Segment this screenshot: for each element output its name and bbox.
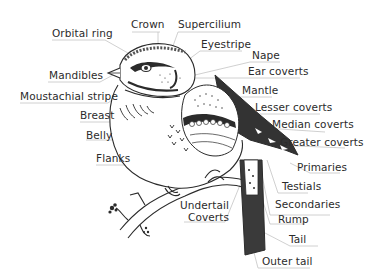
label-outer-tail: Outer tail <box>262 255 313 267</box>
label-belly: Belly <box>86 129 112 141</box>
label-mandibles: Mandibles <box>49 69 103 81</box>
label-testials: Testials <box>282 180 321 192</box>
label-nape: Nape <box>252 49 280 61</box>
label-mantle: Mantle <box>242 84 278 96</box>
label-breast: Breast <box>80 109 114 121</box>
label-secondaries: Secondaries <box>275 198 340 210</box>
label-undertail-coverts-line2: Coverts <box>188 211 229 223</box>
label-supercilium: Supercilium <box>178 18 241 30</box>
label-orbital-ring: Orbital ring <box>52 27 113 39</box>
label-primaries: Primaries <box>297 161 347 173</box>
label-rump: Rump <box>278 213 309 225</box>
bird-anatomy-diagram: Crown Supercilium Orbital ring Eyestripe… <box>0 0 373 278</box>
label-median-coverts: Median coverts <box>272 118 354 130</box>
label-flanks: Flanks <box>96 152 130 164</box>
label-crown: Crown <box>131 18 165 30</box>
label-undertail-coverts-line1: Undertail <box>180 199 229 211</box>
label-tail: Tail <box>289 233 306 245</box>
label-eyestripe: Eyestripe <box>201 38 251 50</box>
tail <box>240 160 265 255</box>
label-lesser-coverts: Lesser coverts <box>255 101 332 113</box>
label-ear-coverts: Ear coverts <box>248 65 309 77</box>
label-moustachial-stripe: Moustachial stripe <box>20 90 118 102</box>
label-greater-coverts: Greater coverts <box>280 136 364 148</box>
